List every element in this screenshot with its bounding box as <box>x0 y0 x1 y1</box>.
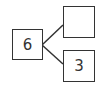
whole-box: 6 <box>12 29 43 60</box>
connector-top <box>42 25 63 45</box>
whole-value: 6 <box>23 36 33 54</box>
connector-bottom <box>42 45 63 64</box>
part-bottom-value: 3 <box>74 57 84 75</box>
part-box-bottom: 3 <box>63 50 95 82</box>
part-box-top[interactable] <box>63 6 95 38</box>
